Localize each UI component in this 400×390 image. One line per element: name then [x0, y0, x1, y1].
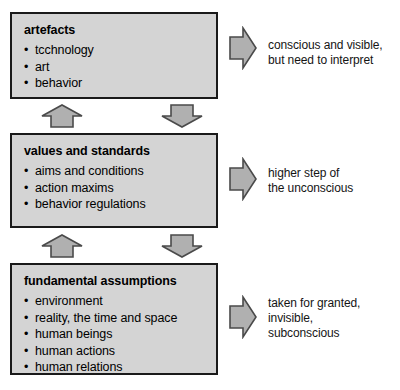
list-item: aims and conditions	[24, 163, 206, 180]
list-item: human actions	[24, 343, 206, 360]
arrow-right-icon	[228, 26, 258, 70]
list-item: environment	[24, 293, 206, 310]
level-box-artefacts: artefacts tcchnology art behavior	[10, 12, 218, 99]
arrow-right-icon	[228, 295, 258, 339]
list-item: reality, the time and space	[24, 310, 206, 327]
caption-line: taken for granted, invisible, subconscio…	[268, 296, 360, 340]
arrow-right-icon	[228, 157, 258, 201]
caption-artefacts: conscious and visible, but need to inter…	[268, 38, 398, 68]
list-item: human relations	[24, 359, 206, 376]
caption-line: higher step of the unconscious	[268, 166, 353, 195]
level-box-fundamental-assumptions: fundamental assumptions environment real…	[10, 263, 218, 375]
level-bullet-list: aims and conditions action maxims behavi…	[24, 163, 206, 213]
level-bullet-list: tcchnology art behavior	[24, 42, 206, 92]
level-box-values-and-standards: values and standards aims and conditions…	[10, 133, 218, 228]
level-bullet-list: environment reality, the time and space …	[24, 293, 206, 376]
list-item: art	[24, 59, 206, 76]
arrow-down-icon	[160, 233, 204, 259]
arrow-down-icon	[160, 103, 204, 129]
list-item: behavior regulations	[24, 196, 206, 213]
caption-line: conscious and visible, but need to inter…	[268, 38, 383, 67]
list-item: tcchnology	[24, 42, 206, 59]
culture-levels-diagram: artefacts tcchnology art behavior consci…	[0, 0, 400, 390]
level-title: fundamental assumptions	[24, 274, 206, 289]
arrow-up-icon	[40, 103, 84, 129]
level-title: artefacts	[24, 23, 206, 38]
arrow-up-icon	[40, 233, 84, 259]
list-item: action maxims	[24, 180, 206, 197]
level-title: values and standards	[24, 144, 206, 159]
list-item: human beings	[24, 326, 206, 343]
list-item: behavior	[24, 75, 206, 92]
caption-values-and-standards: higher step of the unconscious	[268, 166, 398, 196]
caption-fundamental-assumptions: taken for granted, invisible, subconscio…	[268, 296, 398, 341]
